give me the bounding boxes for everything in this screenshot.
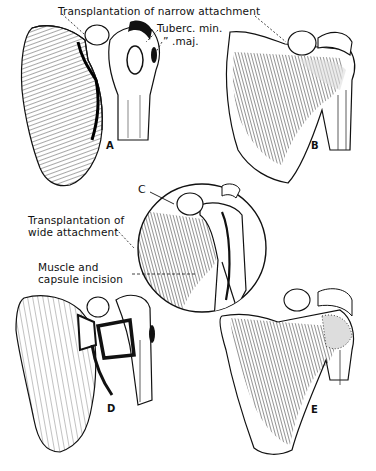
annotation-narrow-attachment: Transplantation of narrow attachment bbox=[58, 5, 260, 17]
panel-e-drawing bbox=[220, 289, 354, 455]
annotation-wide-attachment: Transplantation of wide attachment bbox=[28, 214, 124, 238]
annotation-muscle-incision-line1: Muscle and bbox=[38, 261, 123, 273]
annotation-tuberc-maj: ” .maj. bbox=[163, 35, 199, 47]
panel-c-drawing bbox=[116, 184, 266, 320]
annotation-muscle-incision-line2: capsule incision bbox=[38, 273, 123, 285]
annotation-muscle-incision: Muscle and capsule incision bbox=[38, 261, 123, 285]
panel-label-a: A bbox=[106, 140, 114, 151]
panel-b-drawing bbox=[226, 16, 354, 183]
panel-a-drawing bbox=[21, 14, 162, 186]
panel-label-b: B bbox=[311, 140, 319, 151]
panel-label-e: E bbox=[311, 404, 318, 415]
annotation-wide-attachment-line1: Transplantation of bbox=[28, 214, 124, 226]
panel-label-c: C bbox=[138, 183, 146, 196]
panel-d-drawing bbox=[16, 295, 155, 452]
annotation-tuberc-min: Tuberc. min. bbox=[157, 22, 222, 34]
panel-label-d: D bbox=[107, 403, 115, 414]
annotation-wide-attachment-line2: wide attachment bbox=[28, 226, 124, 238]
